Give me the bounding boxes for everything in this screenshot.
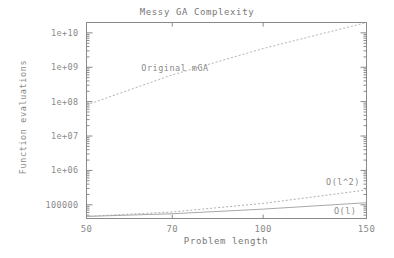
y-tick-label: 1e+09: [10, 62, 79, 72]
series-line: [87, 190, 367, 216]
x-tick-label: 70: [166, 224, 178, 234]
y-tick-label: 1e+08: [10, 97, 79, 107]
x-tick-label: 100: [254, 224, 271, 234]
x-tick-label: 150: [358, 224, 375, 234]
series-line: [87, 203, 367, 217]
chart-container: Messy GA Complexity Function evaluations…: [0, 0, 394, 258]
y-tick-label: 1e+07: [10, 131, 79, 141]
series-line: [87, 23, 367, 105]
series-annotation: O(l): [334, 206, 356, 216]
series-annotation: O(l^2): [326, 177, 360, 187]
tick-marks: [87, 23, 367, 219]
y-tick-label: 100000: [10, 200, 79, 210]
y-tick-label: 1e+10: [10, 28, 79, 38]
x-tick-label: 50: [81, 224, 93, 234]
plot-area: [0, 0, 394, 258]
series-annotation: Original mGA: [141, 63, 208, 73]
series-lines: [87, 23, 367, 217]
y-tick-label: 1e+06: [10, 165, 79, 175]
plot-frame: [87, 23, 367, 219]
